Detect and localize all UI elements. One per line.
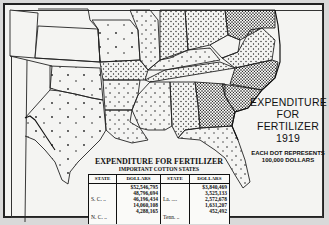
state-cell: La. .... bbox=[163, 196, 187, 202]
header-dollars-right: DOLLARS bbox=[189, 175, 229, 184]
map-title-line-3: FERTILIZER bbox=[250, 120, 326, 132]
state-cell: Tenn. .. bbox=[163, 214, 187, 220]
header-dollars-left: DOLLARS bbox=[117, 175, 161, 184]
table-title: EXPENDITURE FOR FERTILIZER bbox=[88, 157, 230, 166]
dot-legend: EACH DOT REPRESENTS 100,000 DOLLARS bbox=[250, 150, 326, 164]
map-title-year: 1919 bbox=[250, 132, 326, 144]
state-cell: S. C. .. bbox=[91, 196, 114, 202]
fertilizer-table: STATE DOLLARS STATE DOLLARS S. C. .. N. … bbox=[88, 174, 230, 224]
table-subtitle: IMPORTANT COTTON STATES bbox=[88, 166, 230, 173]
left-dollars-column: $52,546,795 48,796,694 46,196,434 14,060… bbox=[117, 184, 161, 225]
table-header-row: STATE DOLLARS STATE DOLLARS bbox=[89, 175, 230, 184]
right-states-column: La. .... Tenn. .. Ark. ... Tex. ... Okla… bbox=[160, 184, 189, 225]
left-states-column: S. C. .. N. C. .. Ga .... Ala .... Miss … bbox=[89, 184, 117, 225]
dot-legend-line-2: 100,000 DOLLARS bbox=[250, 157, 326, 164]
right-dollars-column: $3,840,469 3,525,133 2,572,678 1,631,207… bbox=[189, 184, 229, 225]
header-state-right: STATE bbox=[160, 175, 189, 184]
dollars-cell: 452,492 bbox=[192, 208, 227, 214]
fertilizer-table-panel: EXPENDITURE FOR FERTILIZER IMPORTANT COT… bbox=[88, 157, 230, 224]
header-state-left: STATE bbox=[89, 175, 117, 184]
map-title: EXPENDITURE FOR FERTILIZER 1919 bbox=[250, 96, 326, 144]
map-title-line-2: FOR bbox=[250, 108, 326, 120]
map-title-line-1: EXPENDITURE bbox=[250, 96, 326, 108]
state-cell: N. C. .. bbox=[91, 214, 114, 220]
dollars-cell: 4,288,165 bbox=[119, 208, 158, 214]
table-body-row: S. C. .. N. C. .. Ga .... Ala .... Miss … bbox=[89, 184, 230, 225]
dot-legend-line-1: EACH DOT REPRESENTS bbox=[250, 150, 326, 157]
